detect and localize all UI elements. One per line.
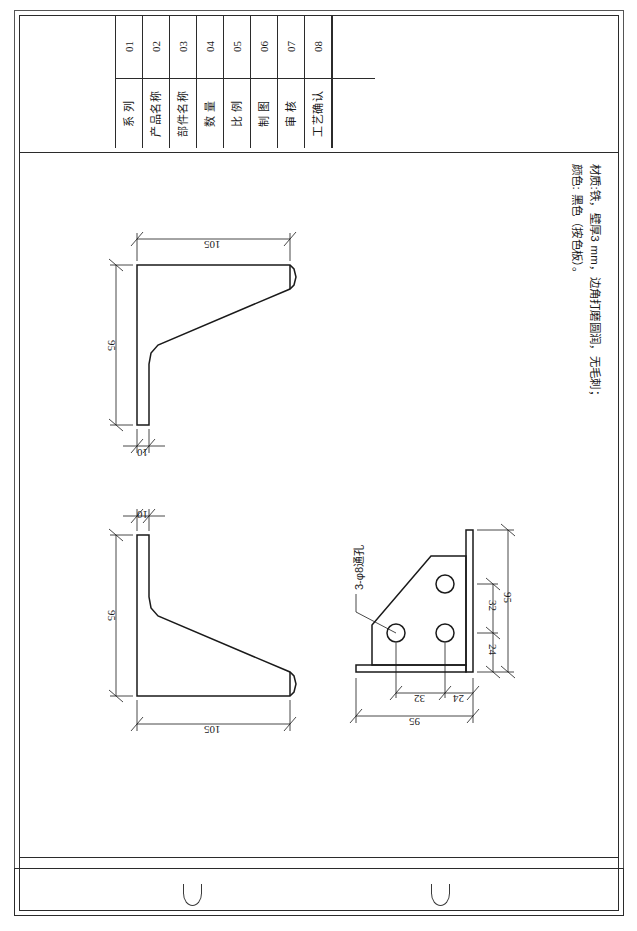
- title-block-number: 07: [286, 41, 297, 52]
- title-block-number-cell: 02: [143, 15, 169, 79]
- callout-through-holes: 3-φ8通孔: [354, 545, 365, 590]
- title-block-row-06: 06 制 图: [251, 15, 278, 148]
- title-block-label-cell: 工艺确认: [305, 79, 331, 148]
- note-color: 颜色: 黑色（按色板）。: [570, 164, 586, 278]
- dim-view3-w-right: 24: [453, 693, 464, 704]
- title-block-row-01: 01 系 列: [116, 15, 143, 148]
- title-block-number-cell: 05: [224, 15, 250, 79]
- title-block-number-cell: 07: [278, 15, 304, 79]
- title-block-row-04: 04 数 量: [197, 15, 224, 148]
- title-block-row-03: 03 部件名称: [170, 15, 197, 148]
- dim-view1-thickness: 10: [137, 447, 148, 458]
- title-block-row-08: 08 工艺确认: [305, 15, 332, 148]
- title-block-label: 制 图: [259, 100, 270, 127]
- title-block-number: 02: [151, 41, 162, 52]
- view-front-holes-geometry: [348, 528, 533, 743]
- dim-view2-width: 105: [204, 724, 221, 735]
- title-block-columns: 01 系 列 02 产品名称 03 部件名称: [116, 15, 332, 148]
- title-block-number: 03: [178, 41, 189, 52]
- title-block-number-cell: 04: [197, 15, 223, 79]
- dim-view3-overall-width: 95: [409, 716, 420, 727]
- notes-block: 材质:铁，壁厚3 mm，边角打磨圆润，无毛刺； 颜色: 黑色（按色板）。: [560, 160, 620, 450]
- dim-view3-overall-height: 95: [502, 592, 513, 603]
- title-block-number-cell: 08: [305, 15, 331, 79]
- dim-view1-height: 95: [106, 340, 117, 351]
- title-block-number: 08: [313, 41, 324, 52]
- title-block-label-cell: 系 列: [116, 79, 142, 148]
- title-block-number-cell: 03: [170, 15, 196, 79]
- title-block-row-02: 02 产品名称: [143, 15, 170, 148]
- drawing-sheet: 01 系 列 02 产品名称 03 部件名称: [0, 0, 637, 931]
- title-block-number: 01: [124, 41, 135, 52]
- title-block-label: 比 例: [232, 100, 243, 127]
- title-block-label-cell: 部件名称: [170, 79, 196, 148]
- title-block-number: 06: [259, 41, 270, 52]
- title-block-number: 04: [205, 41, 216, 52]
- view-front-holes: 3-φ8通孔 32 24 95 32 24 95: [348, 528, 533, 743]
- dim-view2-height: 95: [106, 610, 117, 621]
- view-side-upper: 105 95 10: [118, 225, 318, 460]
- title-block-blank-cell: [19, 15, 116, 148]
- title-block-right-bottom-cell: [333, 79, 375, 148]
- dim-view3-h-upper: 32: [487, 600, 498, 611]
- title-block-label: 工艺确认: [313, 91, 324, 137]
- view-side-lower: 10 95 105: [118, 505, 318, 740]
- title-block-label-cell: 比 例: [224, 79, 250, 148]
- dim-view1-width: 105: [204, 239, 221, 250]
- title-block-number: 05: [232, 41, 243, 52]
- title-block: 01 系 列 02 产品名称 03 部件名称: [19, 15, 375, 148]
- title-block-row-07: 07 审 核: [278, 15, 305, 148]
- title-block-label: 系 列: [124, 100, 135, 127]
- title-block-label: 审 核: [286, 100, 297, 127]
- note-material: 材质:铁，壁厚3 mm，边角打磨圆润，无毛刺；: [588, 164, 604, 401]
- title-block-label-cell: 审 核: [278, 79, 304, 148]
- view-side-upper-geometry: [118, 225, 318, 460]
- title-block-label: 产品名称: [151, 91, 162, 137]
- view-side-lower-geometry: [118, 505, 318, 740]
- title-block-label-cell: 制 图: [251, 79, 277, 148]
- dim-view3-h-lower: 24: [487, 644, 498, 655]
- title-block-label: 数 量: [205, 100, 216, 127]
- title-block-label-cell: 数 量: [197, 79, 223, 148]
- title-block-number-cell: 06: [251, 15, 277, 79]
- sheet-bottom-strip: [14, 868, 624, 916]
- title-block-label: 部件名称: [178, 91, 189, 137]
- dim-view3-w-left: 32: [414, 693, 425, 704]
- title-block-right-column: [332, 15, 375, 148]
- dim-view2-thickness: 10: [137, 509, 148, 520]
- title-block-row-05: 05 比 例: [224, 15, 251, 148]
- title-block-label-cell: 产品名称: [143, 79, 169, 148]
- title-block-right-top-cell: [333, 15, 375, 79]
- title-block-number-cell: 01: [116, 15, 142, 79]
- drawing-area-border: [19, 152, 619, 858]
